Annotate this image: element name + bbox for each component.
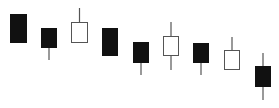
bearish-body — [256, 67, 271, 87]
candle-3 — [72, 8, 88, 43]
candle-2 — [42, 29, 57, 61]
bearish-body — [11, 15, 27, 43]
candle-1 — [11, 15, 27, 43]
bearish-body — [134, 43, 149, 63]
candle-6 — [164, 22, 179, 70]
candlestick-chart — [0, 0, 279, 108]
candlestick-plot-area — [0, 0, 279, 108]
bearish-body — [194, 44, 209, 63]
candle-9 — [256, 53, 271, 100]
candle-7 — [194, 44, 209, 76]
candle-5 — [134, 43, 149, 76]
candle-8 — [225, 37, 240, 70]
bullish-body — [164, 37, 179, 56]
bullish-body — [225, 51, 240, 70]
bearish-body — [103, 29, 118, 56]
bearish-body — [42, 29, 57, 48]
candle-4 — [103, 29, 118, 56]
bullish-body — [72, 23, 88, 43]
